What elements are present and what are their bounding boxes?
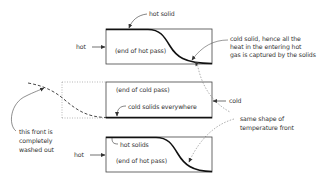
hot-inlet-label-top: hot	[76, 43, 86, 51]
washed-out-front	[28, 83, 106, 118]
top-caption: (end of hot pass)	[115, 47, 166, 55]
same-shape-link-bottom	[189, 119, 234, 162]
hot-solids-label: hot solids	[120, 141, 149, 149]
hot-inlet-label-bottom: hot	[74, 151, 84, 159]
middle-caption: (end of cold pass)	[116, 86, 170, 94]
same-shape-link-top	[197, 62, 230, 112]
cold-solid-leader	[192, 40, 228, 60]
cold-inlet-label: cold	[229, 97, 241, 105]
bottom-caption: (end of hot pass)	[116, 157, 167, 165]
cold-solids-leader	[117, 106, 126, 116]
diagram-canvas: hot solid hot (end of hot pass) cold sol…	[0, 0, 331, 185]
hot-solid-leader	[129, 14, 147, 28]
cold-solids-everywhere-label: cold solids everywhere	[128, 103, 197, 111]
washed-out-leader	[11, 88, 44, 131]
hot-solid-label: hot solid	[149, 10, 175, 18]
hot-solids-leader	[112, 138, 118, 144]
